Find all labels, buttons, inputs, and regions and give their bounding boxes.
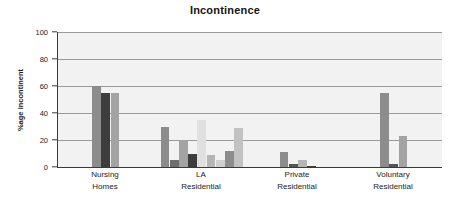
chart-title: Incontinence	[0, 4, 450, 16]
bar	[111, 93, 120, 167]
y-tick-label: 20	[40, 136, 48, 145]
y-tick-label: 80	[40, 55, 48, 64]
bar	[170, 160, 179, 167]
bars-layer	[58, 32, 442, 167]
bar	[380, 93, 389, 167]
bar	[298, 160, 307, 167]
bar	[399, 136, 408, 167]
bar	[101, 93, 110, 167]
y-axis: %age incontinent 020406080100	[0, 32, 57, 167]
x-axis-labels: NursingHomesLAResidentialPrivateResident…	[57, 169, 441, 203]
y-tick-label: 40	[40, 109, 48, 118]
bar	[280, 152, 289, 167]
bar	[92, 86, 101, 167]
bar	[161, 127, 170, 168]
plot-area	[57, 32, 442, 168]
x-category-label: PrivateResidential	[277, 169, 317, 192]
bar	[188, 154, 197, 168]
bar	[197, 120, 206, 167]
bar	[225, 151, 234, 167]
bar-chart: Incontinence %age incontinent 0204060801…	[0, 0, 450, 203]
y-tick-label: 0	[44, 163, 48, 172]
bar	[389, 164, 398, 167]
x-category-label: LAResidential	[181, 169, 221, 192]
y-tick-label: 60	[40, 82, 48, 91]
y-tick-label: 100	[35, 28, 48, 37]
bar	[207, 155, 216, 167]
bar	[307, 166, 316, 167]
x-category-label: NursingHomes	[91, 169, 119, 192]
bar	[179, 140, 188, 167]
bar	[216, 160, 225, 167]
x-category-label: VoluntaryResidential	[373, 169, 413, 192]
bar	[289, 164, 298, 167]
y-axis-title: %age incontinent	[16, 52, 25, 148]
bar	[234, 128, 243, 167]
